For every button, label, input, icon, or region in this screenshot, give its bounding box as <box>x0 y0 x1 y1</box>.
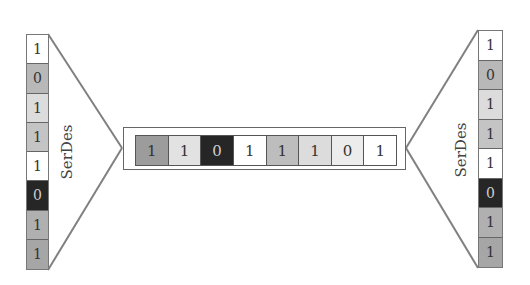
bit-cell: 1 <box>136 136 169 165</box>
bit-cell: 1 <box>27 211 48 240</box>
left-serdes-label: SerDes <box>58 125 76 180</box>
bit-cell: 1 <box>299 136 332 165</box>
bit-cell: 0 <box>201 136 234 165</box>
bit-cell: 1 <box>234 136 267 165</box>
bit-cell: 0 <box>332 136 365 165</box>
bit-cell: 1 <box>27 152 48 181</box>
bit-cell: 1 <box>479 238 502 268</box>
bit-cell: 1 <box>479 208 502 238</box>
bit-cell: 1 <box>27 35 48 64</box>
bit-cell: 1 <box>479 120 502 150</box>
bit-cell: 0 <box>27 181 48 210</box>
bit-cell: 1 <box>27 123 48 152</box>
bit-cell: 0 <box>27 64 48 93</box>
bit-cell: 1 <box>479 31 502 61</box>
bit-cell: 1 <box>169 136 202 165</box>
bit-cell: 1 <box>267 136 300 165</box>
bit-cell: 0 <box>479 179 502 209</box>
bit-cell: 0 <box>479 61 502 91</box>
bit-cell: 1 <box>27 240 48 269</box>
right-serdes-label: SerDes <box>452 123 470 178</box>
bit-cell: 1 <box>479 90 502 120</box>
bit-cell: 1 <box>364 136 396 165</box>
serial-bit-strip: 11011101 <box>135 135 397 166</box>
bit-cell: 1 <box>27 94 48 123</box>
left-serdes-stack: 10111011 <box>26 34 49 270</box>
bit-cell: 1 <box>479 149 502 179</box>
right-serdes-stack: 10111011 <box>478 30 503 268</box>
